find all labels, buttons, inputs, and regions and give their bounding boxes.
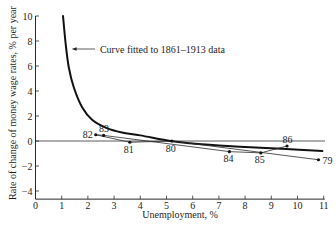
data-point-label: 86 xyxy=(283,134,293,145)
data-point-79 xyxy=(317,158,320,161)
y-tick-label: 4 xyxy=(28,86,33,97)
arrow-left-icon xyxy=(72,47,77,51)
data-point-label: 81 xyxy=(124,144,134,155)
data-point-label: 80 xyxy=(166,143,176,154)
data-point-label: 79 xyxy=(322,155,332,166)
x-tick-label: 2 xyxy=(85,200,90,211)
x-tick-label: 1 xyxy=(59,200,64,211)
y-tick-label: 0 xyxy=(28,136,33,147)
y-tick-label: −2 xyxy=(22,161,33,172)
phillips-curve-chart: 7980818283848586 01234567891011 1086420−… xyxy=(0,0,336,233)
y-axis-ticks: 1086420−2−4 xyxy=(22,11,39,197)
annotation-text: Curve fitted to 1861–1913 data xyxy=(100,44,226,55)
y-tick-label: 8 xyxy=(28,36,33,47)
curve-annotation: Curve fitted to 1861–1913 data xyxy=(72,44,226,55)
data-point-82 xyxy=(94,133,97,136)
x-tick-label: 3 xyxy=(112,200,117,211)
data-point-label: 84 xyxy=(223,153,233,164)
x-tick-label: 9 xyxy=(269,200,274,211)
data-point-label: 85 xyxy=(255,154,265,165)
y-tick-label: −4 xyxy=(22,186,33,197)
y-tick-label: 6 xyxy=(28,61,33,72)
x-tick-label: 8 xyxy=(243,200,248,211)
y-axis-label: Rate of change of money wage rates, % pe… xyxy=(7,5,18,199)
x-tick-label: 11 xyxy=(319,200,329,211)
y-tick-label: 2 xyxy=(28,111,33,122)
x-axis-label: Unemployment, % xyxy=(142,209,218,220)
x-tick-label: 0 xyxy=(33,200,38,211)
data-point-label: 83 xyxy=(99,123,109,134)
data-point-label: 82 xyxy=(83,129,93,140)
y-tick-label: 10 xyxy=(23,11,33,22)
x-tick-label: 10 xyxy=(293,200,303,211)
